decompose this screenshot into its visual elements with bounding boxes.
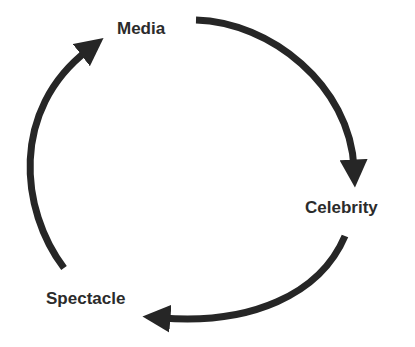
cycle-diagram: Media Celebrity Spectacle xyxy=(0,0,415,347)
arrow-spectacle-to-media xyxy=(30,50,88,268)
node-media-label: Media xyxy=(117,20,165,37)
arrow-celebrity-to-spectacle xyxy=(162,236,345,319)
node-celebrity-label: Celebrity xyxy=(305,199,378,216)
arrow-media-to-celebrity xyxy=(196,20,354,168)
node-spectacle-label: Spectacle xyxy=(46,290,125,307)
